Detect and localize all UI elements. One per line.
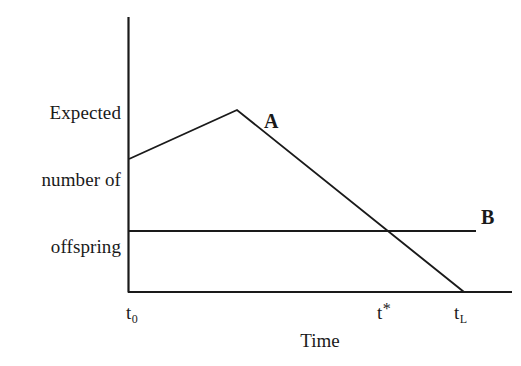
x-tick-sub-tl: L: [460, 312, 467, 326]
y-axis-label-line-3: offspring: [8, 236, 121, 258]
x-tick-sup-tstar: *: [383, 300, 391, 317]
x-tick-label-tl: tL: [454, 302, 467, 324]
x-tick-label-tstar: t*: [377, 302, 390, 324]
x-tick-base-t0: t: [126, 302, 131, 323]
y-axis-label-line-2: number of: [8, 169, 121, 191]
x-tick-sub-t0: 0: [132, 312, 138, 326]
x-tick-base-tl: t: [454, 302, 459, 323]
series-label-a: A: [264, 110, 278, 134]
y-axis-label-line-1: Expected: [8, 102, 121, 124]
series-line-a: [129, 110, 464, 292]
y-axis-label: Expected number of offspring: [8, 57, 121, 303]
x-tick-label-t0: t0: [126, 302, 137, 324]
x-tick-base-tstar: t: [377, 302, 382, 323]
series-label-b: B: [481, 206, 494, 230]
figure-canvas: Expected number of offspring Time A B t0…: [0, 0, 521, 366]
x-axis-label: Time: [268, 330, 372, 352]
